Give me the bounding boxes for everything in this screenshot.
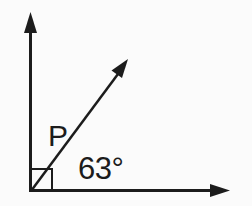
horizontal-ray — [29, 184, 230, 197]
point-label: P — [48, 119, 68, 152]
angle-diagram: P 63° — [0, 0, 252, 206]
right-arrowhead-icon — [210, 184, 230, 197]
up-arrowhead-icon — [24, 12, 37, 33]
diagonal-arrowhead-icon — [112, 59, 129, 78]
vertical-ray — [24, 12, 37, 192]
angle-value-label: 63° — [78, 151, 123, 186]
angle-diagram-canvas: P 63° — [0, 0, 252, 206]
